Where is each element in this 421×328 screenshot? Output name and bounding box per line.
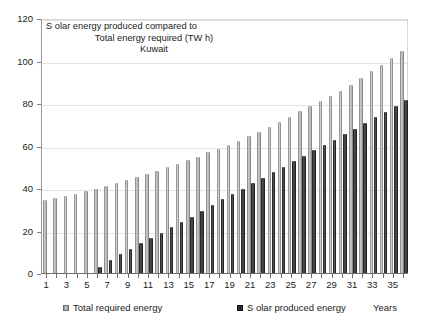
x-axis-tick-mark-20	[240, 274, 241, 278]
x-axis-tick-mark-3	[66, 274, 67, 278]
x-axis-tick-mark-14	[179, 274, 180, 278]
bar-solar-produced-energy	[363, 123, 367, 273]
x-axis-tick-mark-30	[342, 274, 343, 278]
bar-total-required-energy	[206, 152, 210, 273]
bar-total-required-energy	[74, 194, 78, 273]
legend-item-solar-produced-energy: S olar produced energy	[237, 302, 346, 313]
bar-solar-produced-energy	[394, 106, 398, 273]
bar-total-required-energy	[359, 78, 363, 274]
x-axis-tick-mark-29	[332, 274, 333, 278]
x-axis-tick-mark-10	[138, 274, 139, 278]
x-axis-tick-mark-19	[230, 274, 231, 278]
y-axis-tick-label-100: 100	[2, 57, 33, 66]
chart-title-line-2: Total energy required (TW h)	[44, 33, 264, 45]
x-axis-tick-label-23: 23	[260, 280, 280, 290]
bar-total-required-energy	[64, 196, 68, 273]
bar-solar-produced-energy	[343, 134, 347, 273]
x-axis-tick-label-31: 31	[342, 280, 362, 290]
x-axis-tick-mark-32	[362, 274, 363, 278]
bar-total-required-energy	[319, 101, 323, 273]
chart-title-line-3: Kuwait	[44, 44, 264, 56]
legend-label-total: Total required energy	[73, 302, 162, 313]
x-axis-tick-label-19: 19	[220, 280, 240, 290]
x-axis-tick-mark-8	[117, 274, 118, 278]
x-axis-tick-mark-36	[403, 274, 404, 278]
bar-solar-produced-energy	[272, 172, 276, 273]
bar-solar-produced-energy	[170, 227, 174, 273]
x-axis-tick-label-3: 3	[56, 280, 76, 290]
bar-total-required-energy	[217, 149, 221, 273]
bar-total-required-energy	[155, 171, 159, 273]
bar-solar-produced-energy	[323, 145, 327, 273]
x-axis-tick-mark-34	[383, 274, 384, 278]
x-axis-tick-mark-4	[77, 274, 78, 278]
bar-total-required-energy	[115, 183, 119, 273]
bar-total-required-energy	[227, 145, 231, 273]
bar-total-required-energy	[380, 65, 384, 273]
bar-solar-produced-energy	[190, 217, 194, 273]
bar-solar-produced-energy	[109, 260, 113, 273]
x-axis-tick-label-25: 25	[281, 280, 301, 290]
bar-total-required-energy	[125, 180, 129, 273]
bar-solar-produced-energy	[251, 183, 255, 273]
bar-total-required-energy	[390, 58, 394, 273]
x-axis-tick-mark-1	[46, 274, 47, 278]
bar-solar-produced-energy	[98, 267, 102, 273]
x-axis-tick-mark-13	[168, 274, 169, 278]
bar-total-required-energy	[145, 174, 149, 273]
bar-total-required-energy	[298, 111, 302, 273]
bar-total-required-energy	[329, 96, 333, 273]
x-axis-tick-mark-12	[158, 274, 159, 278]
bar-solar-produced-energy	[333, 140, 337, 273]
bar-solar-produced-energy	[129, 249, 133, 273]
plot-area	[41, 19, 408, 274]
x-axis-tick-mark-24	[281, 274, 282, 278]
bar-solar-produced-energy	[292, 161, 296, 273]
y-axis-tick-label-120: 120	[2, 14, 33, 23]
y-axis-tick-mark-0	[37, 274, 41, 275]
x-axis-tick-label-35: 35	[383, 280, 403, 290]
bar-total-required-energy	[196, 157, 200, 273]
x-axis-tick-mark-7	[107, 274, 108, 278]
bar-solar-produced-energy	[231, 194, 235, 273]
x-axis-tick-label-21: 21	[240, 280, 260, 290]
x-axis-tick-mark-18	[219, 274, 220, 278]
x-axis-tick-mark-17	[209, 274, 210, 278]
bar-solar-produced-energy	[180, 222, 184, 273]
x-axis-tick-mark-16	[199, 274, 200, 278]
bar-total-required-energy	[268, 127, 272, 273]
x-axis-tick-mark-9	[128, 274, 129, 278]
bar-solar-produced-energy	[261, 178, 265, 273]
bar-solar-produced-energy	[160, 233, 164, 273]
bar-solar-produced-energy	[119, 254, 123, 273]
y-axis-tick-label-20: 20	[2, 227, 33, 236]
bar-solar-produced-energy	[312, 150, 316, 273]
x-axis-tick-mark-21	[250, 274, 251, 278]
x-axis-tick-label-5: 5	[77, 280, 97, 290]
bar-total-required-energy	[370, 71, 374, 273]
x-axis-tick-mark-27	[311, 274, 312, 278]
bar-solar-produced-energy	[282, 167, 286, 273]
legend-swatch-total-icon	[63, 305, 69, 311]
bar-total-required-energy	[247, 136, 251, 273]
bar-series-group	[42, 20, 407, 273]
bar-solar-produced-energy	[353, 129, 357, 274]
bar-total-required-energy	[186, 160, 190, 273]
x-axis-tick-label-11: 11	[138, 280, 158, 290]
x-axis-tick-mark-35	[393, 274, 394, 278]
bar-solar-produced-energy	[404, 100, 408, 273]
x-axis-tick-label-29: 29	[322, 280, 342, 290]
bar-total-required-energy	[278, 122, 282, 274]
legend-label-solar: S olar produced energy	[247, 302, 346, 313]
bar-total-required-energy	[166, 167, 170, 273]
x-axis-tick-mark-6	[97, 274, 98, 278]
x-axis-tick-label-1: 1	[36, 280, 56, 290]
y-axis-tick-label-60: 60	[2, 142, 33, 151]
x-axis-tick-mark-11	[148, 274, 149, 278]
bar-total-required-energy	[257, 132, 261, 273]
bar-solar-produced-energy	[384, 112, 388, 274]
x-axis-tick-mark-23	[270, 274, 271, 278]
bar-total-required-energy	[84, 191, 88, 273]
y-axis-tick-label-80: 80	[2, 99, 33, 108]
bar-total-required-energy	[135, 177, 139, 273]
